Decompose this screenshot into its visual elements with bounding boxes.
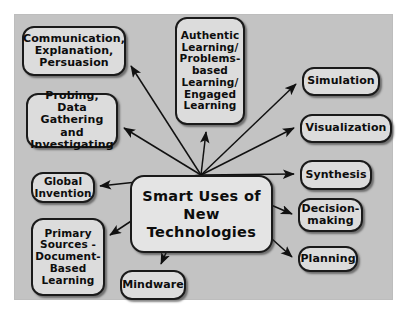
node-global-invention[interactable]: Global Invention — [31, 172, 95, 203]
node-planning[interactable]: Planning — [298, 246, 358, 272]
diagram-canvas: Communication, Explanation, Persuasion A… — [0, 0, 415, 323]
node-probing-data-gathering[interactable]: Probing, Data Gathering and Investigatin… — [26, 93, 118, 148]
node-center-smart-uses[interactable]: Smart Uses of New Technologies — [130, 175, 273, 253]
node-primary-sources[interactable]: Primary Sources - Document- Based Learni… — [31, 218, 105, 296]
node-visualization[interactable]: Visualization — [300, 114, 392, 143]
node-decision-making[interactable]: Decision- making — [298, 198, 363, 232]
node-authentic-learning[interactable]: Authentic Learning/ Problems- based Lear… — [175, 17, 245, 125]
node-simulation[interactable]: Simulation — [302, 67, 380, 96]
node-synthesis[interactable]: Synthesis — [300, 160, 372, 190]
node-mindware[interactable]: Mindware — [120, 270, 186, 300]
node-communication[interactable]: Communication, Explanation, Persuasion — [22, 26, 126, 76]
